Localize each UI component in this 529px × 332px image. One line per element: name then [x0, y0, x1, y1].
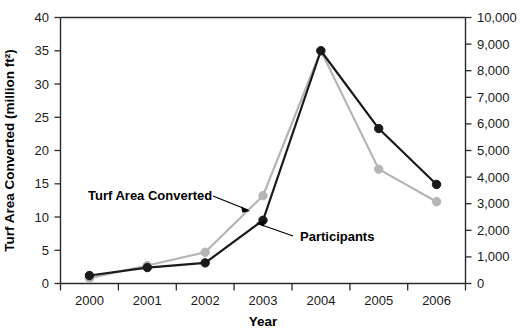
data-point-turf-area-2003	[259, 192, 267, 200]
annotation-label-participants: Participants	[300, 229, 374, 244]
left-tick-label-40: 40	[35, 10, 49, 25]
annotation-label-turf-area-converted: Turf Area Converted	[88, 188, 212, 203]
series-markers-turf-area-converted	[85, 47, 441, 283]
left-tick-label-5: 5	[42, 243, 49, 258]
x-axis-title: Year	[249, 314, 278, 329]
x-tick-label-2004: 2004	[306, 293, 335, 308]
plot-frame	[61, 18, 466, 284]
right-axis-ticks	[466, 18, 472, 284]
data-point-participants-2005	[375, 124, 383, 132]
line-chart: 0 5 10 15 20 25 30 35 40 0 1,00	[0, 0, 529, 332]
series-line-participants	[89, 51, 436, 276]
data-point-turf-area-2005	[375, 165, 383, 173]
x-tick-label-2005: 2005	[364, 293, 393, 308]
data-point-participants-2004	[317, 47, 325, 55]
right-tick-label-8000: 8,000	[477, 63, 510, 78]
right-tick-label-7000: 7,000	[477, 90, 510, 105]
x-tick-label-2002: 2002	[191, 293, 220, 308]
right-tick-label-1000: 1,000	[477, 249, 510, 264]
right-tick-label-6000: 6,000	[477, 116, 510, 131]
left-tick-label-25: 25	[35, 110, 49, 125]
right-axis-tick-labels: 0 1,000 2,000 3,000 4,000 5,000 6,000 7,…	[477, 10, 517, 291]
series-markers-participants	[85, 47, 441, 280]
annotation-participants: Participants	[256, 220, 374, 244]
left-tick-label-35: 35	[35, 43, 49, 58]
left-tick-label-0: 0	[42, 276, 49, 291]
chart-container: 0 5 10 15 20 25 30 35 40 0 1,00	[0, 0, 529, 332]
x-axis-tick-labels: 2000 2001 2002 2003 2004 2005 2006	[75, 293, 451, 308]
data-point-turf-area-2002	[201, 248, 209, 256]
annotation-arrow-participants	[259, 224, 293, 236]
series-line-turf-area-converted	[89, 51, 436, 278]
left-tick-label-20: 20	[35, 143, 49, 158]
x-tick-label-2003: 2003	[249, 293, 278, 308]
data-point-participants-2006	[432, 180, 440, 188]
data-point-participants-2002	[201, 259, 209, 267]
right-tick-label-3000: 3,000	[477, 196, 510, 211]
x-tick-label-2001: 2001	[133, 293, 162, 308]
right-tick-label-5000: 5,000	[477, 143, 510, 158]
left-tick-label-10: 10	[35, 210, 49, 225]
x-axis-ticks	[61, 284, 466, 291]
y-axis-title: Turf Area Converted (million ft²)	[2, 49, 17, 252]
series-turf-area-converted	[85, 47, 441, 283]
right-tick-label-10000: 10,000	[477, 10, 517, 25]
data-point-turf-area-2006	[432, 198, 440, 206]
right-tick-label-9000: 9,000	[477, 37, 510, 52]
right-tick-label-2000: 2,000	[477, 223, 510, 238]
series-participants	[85, 47, 441, 280]
left-axis-tick-labels: 0 5 10 15 20 25 30 35 40	[35, 10, 49, 291]
left-tick-label-30: 30	[35, 77, 49, 92]
data-point-participants-2001	[143, 263, 151, 271]
left-axis-ticks	[55, 18, 61, 284]
right-tick-label-0: 0	[477, 276, 484, 291]
x-tick-label-2006: 2006	[422, 293, 451, 308]
right-tick-label-4000: 4,000	[477, 170, 510, 185]
x-tick-label-2000: 2000	[75, 293, 104, 308]
data-point-participants-2000	[85, 271, 93, 279]
annotation-turf-area-converted: Turf Area Converted	[88, 188, 250, 213]
left-tick-label-15: 15	[35, 176, 49, 191]
